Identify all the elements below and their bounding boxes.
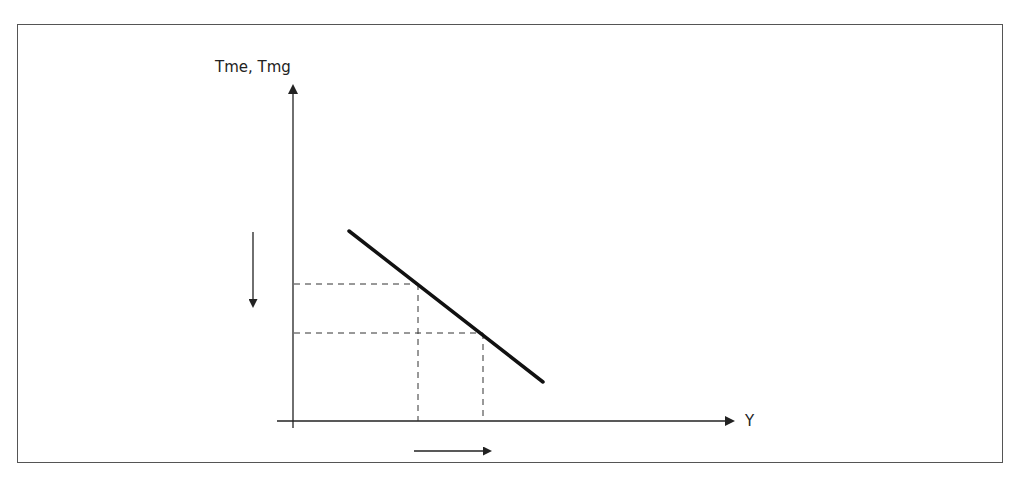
projection-lines [294, 284, 483, 421]
relation-line [349, 231, 543, 382]
y-axis-label: Tme, Tmg [215, 58, 291, 76]
diagram-canvas [0, 0, 1014, 482]
x-axis-label: Y [745, 412, 754, 430]
